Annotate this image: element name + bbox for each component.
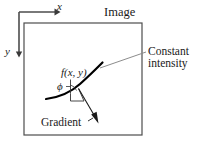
constant-intensity-leader-line — [100, 52, 146, 68]
gradient-vector-arrow — [79, 89, 99, 124]
phi-angle-label: ϕ — [57, 81, 63, 93]
constant-intensity-label: Constant intensity — [148, 45, 189, 69]
gradient-arrowhead-icon — [91, 112, 98, 124]
function-label: f(x, y) — [61, 67, 87, 79]
gradient-label-leader — [88, 118, 93, 121]
x-axis-label: x — [57, 1, 62, 13]
image-region-label: Image — [104, 6, 135, 19]
y-axis-label: y — [5, 46, 10, 58]
gradient-arrow-shaft — [79, 89, 96, 118]
figure-container: Image Constant intensity Gradient x y f(… — [0, 0, 198, 141]
gradient-label: Gradient — [41, 116, 81, 128]
figure-vector-graphics — [0, 0, 198, 141]
coordinate-axes — [16, 9, 61, 58]
y-axis-arrowhead-icon — [16, 52, 22, 58]
